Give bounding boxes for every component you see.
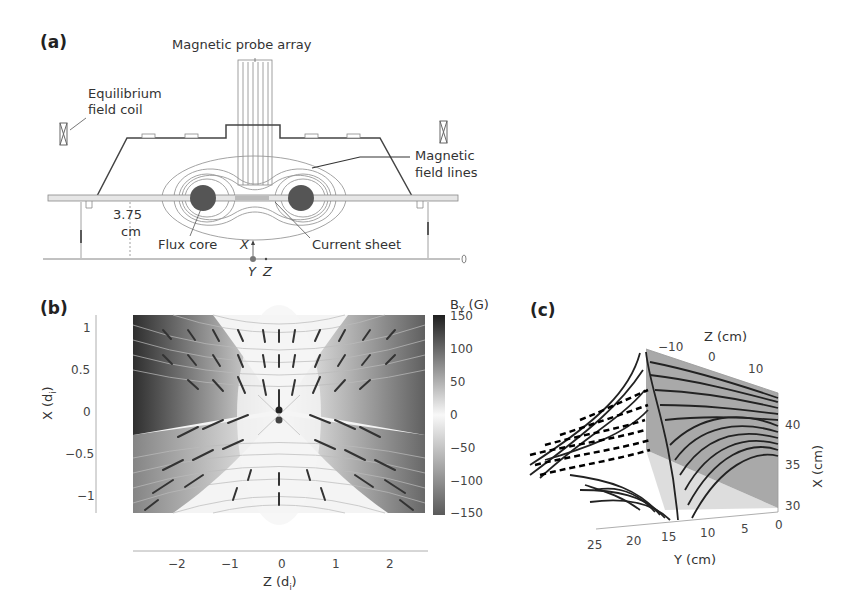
y-tick: 0: [83, 405, 91, 419]
flux-core-left: [190, 185, 216, 211]
y-tick: 1: [83, 321, 91, 335]
x-tick: 1: [332, 557, 340, 571]
colorbar-tick: −100: [450, 474, 483, 488]
panel-b-label: (b): [40, 298, 68, 318]
flux-core-label: Flux core: [158, 237, 217, 252]
y-tick: −1: [77, 489, 95, 503]
z-tick: 10: [748, 362, 763, 376]
experimental-setup-schematic: [0, 0, 857, 290]
axis-origin-icon: [250, 256, 256, 262]
z-tick: 0: [708, 350, 716, 364]
y-tick: 5: [741, 522, 749, 536]
field-lines-label-1: Magnetic: [415, 148, 475, 163]
y-tick: 20: [626, 534, 641, 548]
x-tick: −1: [221, 557, 239, 571]
x-axis-line: [133, 548, 453, 554]
axis-y-label: Y: [248, 264, 256, 279]
colorbar: [433, 315, 447, 515]
distance-value-label: 3.75: [113, 207, 142, 222]
y-axis-label-end: ): [40, 386, 55, 391]
x-axis-label-end: ): [292, 574, 297, 589]
y-axis-label: Y (cm): [674, 552, 716, 567]
probe-array-label: Magnetic probe array: [172, 37, 311, 52]
y-axis-label: X (di): [40, 386, 61, 420]
current-sheet-label: Current sheet: [312, 237, 401, 252]
y-tick: 25: [587, 538, 602, 552]
y-tick: 15: [661, 530, 676, 544]
y-tick: −0.5: [65, 447, 94, 461]
distance-unit-label: cm: [121, 224, 141, 239]
colorbar-tick: −150: [450, 506, 483, 520]
current-sheet: [235, 196, 269, 200]
3d-field-lines-plot: [500, 280, 840, 600]
probe-array-icon: [238, 58, 272, 185]
z-axis-label: Z (cm): [704, 329, 747, 344]
x-tick: 40: [785, 418, 800, 432]
y-axis-label-sub: i: [49, 391, 58, 393]
colorbar-tick: 150: [450, 309, 473, 323]
x-tick: −2: [168, 557, 186, 571]
equilibrium-coil-label-1: Equilibrium: [88, 86, 162, 101]
y-axis-label-main: X (d: [40, 394, 55, 420]
by-heatmap: [133, 315, 433, 515]
colorbar-tick: 50: [450, 375, 465, 389]
field-lines-label-2: field lines: [415, 165, 477, 180]
z-tick: −10: [658, 340, 683, 354]
x-tick: 0: [278, 557, 286, 571]
x-axis-label: X (cm): [810, 445, 825, 488]
y-tick: 0.5: [71, 363, 90, 377]
y-tick: 0: [775, 518, 783, 532]
colorbar-tick: 0: [450, 408, 458, 422]
colorbar-tick: 100: [450, 342, 473, 356]
x-axis-label: Z (di): [263, 574, 297, 595]
y-axis-line: [93, 315, 99, 515]
x-tick: 2: [386, 557, 394, 571]
x-axis-label-main: Z (d: [263, 574, 289, 589]
y-tick: 10: [700, 526, 715, 540]
colorbar-tick: −50: [450, 441, 475, 455]
x-tick: 35: [785, 458, 800, 472]
flux-core-right: [288, 185, 314, 211]
axis-z-label: Z: [263, 264, 272, 279]
x-tick: 30: [785, 499, 800, 513]
axis-x-label: X: [240, 237, 249, 252]
equilibrium-coil-label-2: field coil: [88, 102, 143, 117]
